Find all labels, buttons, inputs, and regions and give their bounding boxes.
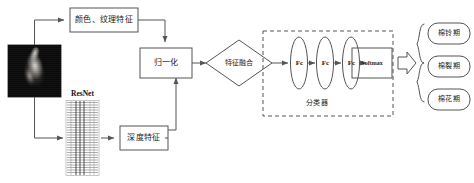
- classifier-label: 分类器: [292, 97, 342, 109]
- color-texture-label: 颜色、纹理特征: [70, 8, 138, 32]
- deep-feature-label: 深度特征: [120, 126, 168, 150]
- output-label-1: 棉裂期: [428, 56, 470, 77]
- block-arrow-to-outputs: [398, 52, 416, 74]
- edge-deep-to-normalize: [168, 78, 176, 130]
- resnet-layer-stack: [65, 100, 100, 176]
- resnet-label: ResNet: [60, 89, 105, 99]
- resnet-column-dividers: [71, 101, 94, 175]
- fc1-label: Fc: [291, 56, 308, 70]
- output-brace: [417, 24, 424, 102]
- fusion-label: 特征融合: [211, 53, 267, 73]
- resnet-skip-connections: [76, 101, 84, 175]
- normalize-label: 归一化: [140, 48, 192, 78]
- output-label-2: 棉花期: [428, 89, 470, 110]
- input-image-thumbnail: [8, 45, 61, 97]
- diagram-canvas: 颜色、纹理特征 ResNet 深度特征 归一化 特征融合 Fc Fc Fc So…: [0, 0, 474, 183]
- edge-color-to-normalize: [138, 20, 165, 42]
- resnet-layer-bars: [67, 103, 98, 173]
- image-noise-overlay: [8, 45, 61, 97]
- fc2-label: Fc: [317, 56, 334, 70]
- softmax-label: Softmax: [352, 48, 392, 78]
- output-label-0: 棉铃期: [428, 23, 470, 44]
- edge-image-to-resnet: [35, 97, 64, 138]
